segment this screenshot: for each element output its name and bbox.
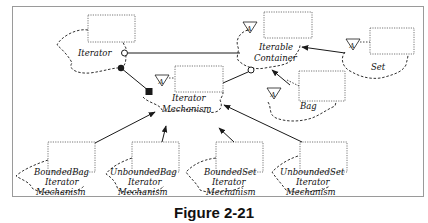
relationship-iterator-to-iterable-container [122, 50, 241, 56]
inheritance-boundedbag-to-mechanism [95, 112, 155, 143]
has-end-square-icon [146, 88, 153, 95]
class-label-line1: Iterable [258, 42, 293, 52]
relationship-iterator-has-mechanism [118, 65, 153, 95]
svg-text:A: A [349, 42, 355, 50]
inheritance-bag-to-container [272, 70, 290, 85]
class-label-line2: Container [254, 53, 298, 63]
class-diagram: Iterator A Iterable Container A Set A Ba… [0, 0, 428, 223]
class-iterator[interactable]: Iterator [57, 15, 135, 73]
class-label-line1: BoundedSet [203, 167, 257, 177]
class-box [370, 28, 414, 54]
class-bounded-bag-iterator-mechanism[interactable]: BoundedBag Iterator Mechanism [16, 142, 95, 197]
class-label-line2: Mechanism [161, 104, 212, 114]
svg-text:A: A [246, 25, 252, 33]
class-label-line2: Iterator [127, 177, 162, 187]
abstract-adornment-icon: A [243, 22, 257, 33]
class-label-line1: UnboundedBag [110, 167, 177, 177]
class-label-line2: Iterator [295, 177, 330, 187]
inheritance-set-to-container [302, 47, 345, 53]
class-label-line2: Iterator [211, 177, 246, 187]
has-end-dot-icon [118, 65, 124, 71]
class-label-line3: Mechanism [205, 187, 256, 197]
class-label: Bag [299, 101, 317, 111]
class-label-line1: Iterator [171, 93, 206, 103]
inheritance-boundedset-to-mechanism [219, 128, 234, 142]
class-box [264, 12, 312, 38]
class-unbounded-bag-iterator-mechanism[interactable]: UnboundedBag Iterator Mechanism [106, 142, 179, 197]
class-label-line3: Mechanism [117, 187, 168, 197]
association-end-circle-icon [248, 67, 254, 73]
association-end-circle-icon [122, 50, 128, 56]
class-iterator-mechanism[interactable]: A Iterator Mechanism [143, 66, 223, 114]
abstract-adornment-icon: A [155, 75, 169, 86]
inheritance-unboundedset-to-mechanism [224, 105, 302, 142]
figure-caption: Figure 2-21 [0, 204, 428, 221]
class-label-line3: Mechanism [285, 187, 336, 197]
class-label-line2: Iterator [44, 177, 79, 187]
class-bag[interactable]: A Bag [267, 71, 345, 121]
class-box [88, 15, 135, 42]
class-bounded-set-iterator-mechanism[interactable]: BoundedSet Iterator Mechanism [186, 142, 263, 197]
relationship-mechanism-to-iterable-container [223, 67, 254, 83]
class-label: Iterator [77, 48, 112, 58]
class-iterable-container[interactable]: A Iterable Container [237, 12, 312, 69]
svg-text:A: A [158, 78, 164, 86]
class-label-line1: BoundedBag [33, 167, 90, 177]
class-label-line1: UnboundedSet [280, 167, 345, 177]
class-set[interactable]: A Set [342, 28, 414, 78]
class-unbounded-set-iterator-mechanism[interactable]: UnboundedSet Iterator Mechanism [272, 142, 347, 197]
class-label: Set [371, 62, 386, 72]
inheritance-unboundedbag-to-mechanism [162, 126, 166, 142]
abstract-adornment-icon: A [346, 39, 360, 50]
abstract-adornment-icon: A [267, 88, 281, 99]
class-box [175, 66, 223, 92]
class-label-line3: Mechanism [35, 187, 86, 197]
svg-text:A: A [270, 91, 276, 99]
class-box [299, 71, 345, 101]
